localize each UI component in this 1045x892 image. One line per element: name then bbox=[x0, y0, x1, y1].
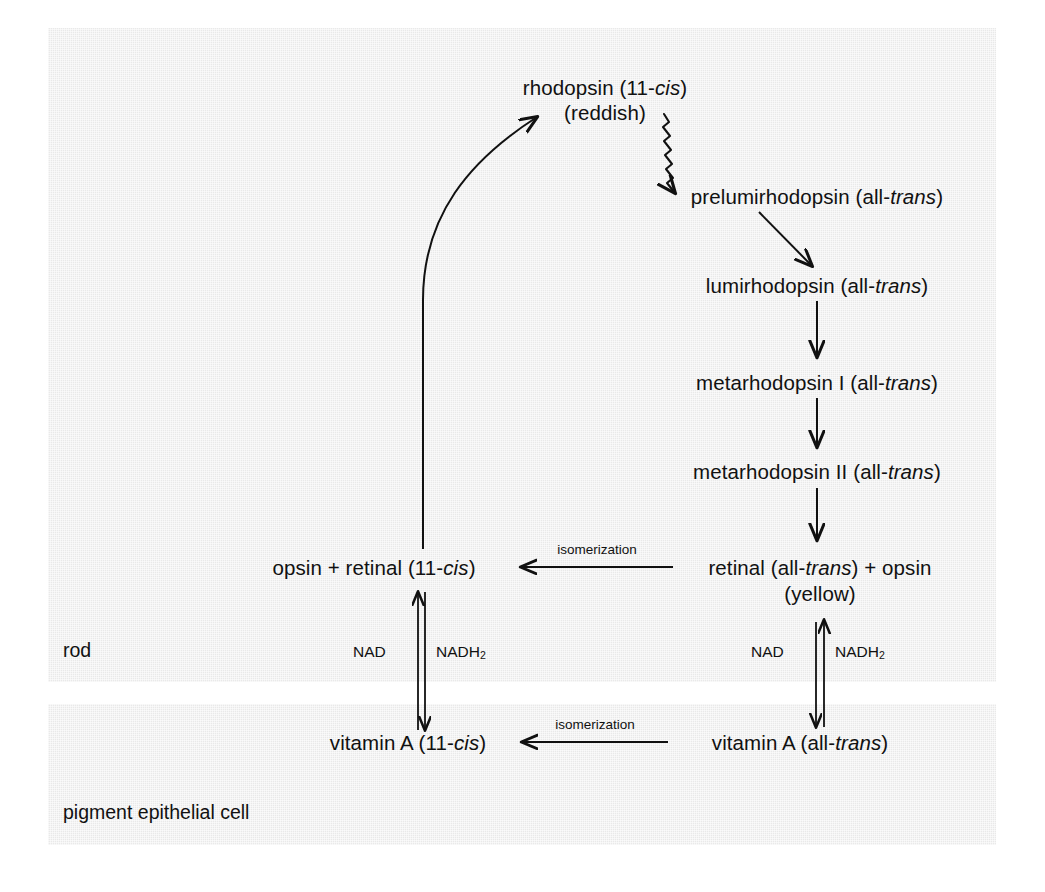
node-retinal-alltrans-opsin: retinal (all-trans) + opsin bbox=[708, 555, 931, 580]
node-rhodopsin: rhodopsin (11-cis) bbox=[523, 75, 687, 100]
node-lumirhodopsin: lumirhodopsin (all-trans) bbox=[706, 273, 928, 298]
label-compartment-rod: rod bbox=[63, 639, 91, 662]
node-vitamin-a-11cis: vitamin A (11-cis) bbox=[330, 730, 486, 755]
label-nadh2-right: NADH2 bbox=[835, 643, 885, 661]
node-vitamin-a-alltrans: vitamin A (all-trans) bbox=[712, 730, 888, 755]
node-prelumirhodopsin: prelumirhodopsin (all-trans) bbox=[691, 184, 943, 209]
node-metarhodopsin-i: metarhodopsin I (all-trans) bbox=[696, 370, 938, 395]
node-metarhodopsin-ii: metarhodopsin II (all-trans) bbox=[693, 459, 941, 484]
label-nad-right: NAD bbox=[751, 643, 784, 661]
label-nad-left: NAD bbox=[353, 643, 386, 661]
node-rhodopsin-color: (reddish) bbox=[564, 100, 646, 125]
diagram-canvas: rhodopsin (11-cis) (reddish) prelumirhod… bbox=[0, 0, 1045, 892]
node-retinal-alltrans-color: (yellow) bbox=[784, 581, 855, 606]
label-isomerization-vitamin-a: isomerization bbox=[555, 717, 635, 732]
label-nadh2-left: NADH2 bbox=[436, 643, 486, 661]
label-isomerization-retinal: isomerization bbox=[557, 542, 637, 557]
node-opsin-retinal-11cis: opsin + retinal (11-cis) bbox=[272, 555, 475, 580]
label-compartment-pigment-epithelial-cell: pigment epithelial cell bbox=[63, 801, 249, 824]
